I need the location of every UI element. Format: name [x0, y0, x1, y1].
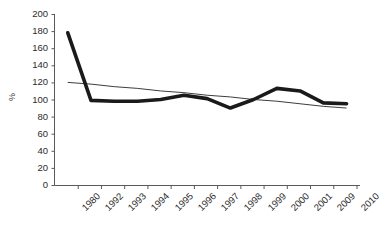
x-axis-ticks — [78, 186, 357, 190]
value-line-series — [68, 33, 347, 108]
